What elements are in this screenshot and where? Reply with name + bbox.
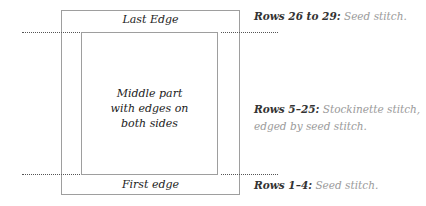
note-text: Seed stitch. xyxy=(341,10,407,22)
note-text: Seed stitch. xyxy=(312,179,378,191)
middle-line-2: with edges on xyxy=(81,101,218,116)
note-text-line-2: edged by seed stitch. xyxy=(254,118,420,135)
top-right-dotted-line xyxy=(221,32,278,33)
top-left-dotted-line xyxy=(22,32,80,33)
note-rows-26-29: Rows 26 to 29: Seed stitch. xyxy=(254,8,407,25)
first-edge-label: First edge xyxy=(61,178,240,191)
middle-part-label: Middle part with edges on both sides xyxy=(81,86,218,131)
note-heading: Rows 1–4: xyxy=(254,179,312,191)
bottom-right-dotted-line xyxy=(221,174,278,175)
note-heading: Rows 26 to 29: xyxy=(254,10,341,22)
last-edge-label: Last Edge xyxy=(61,13,240,26)
note-heading: Rows 5–25: xyxy=(254,103,319,115)
note-rows-1-4: Rows 1–4: Seed stitch. xyxy=(254,177,378,194)
note-text: Stockinette stitch, xyxy=(319,103,420,115)
bottom-left-dotted-line xyxy=(22,174,80,175)
note-rows-5-25: Rows 5–25: Stockinette stitch, edged by … xyxy=(254,101,420,135)
middle-line-3: both sides xyxy=(81,116,218,131)
middle-line-1: Middle part xyxy=(81,86,218,101)
